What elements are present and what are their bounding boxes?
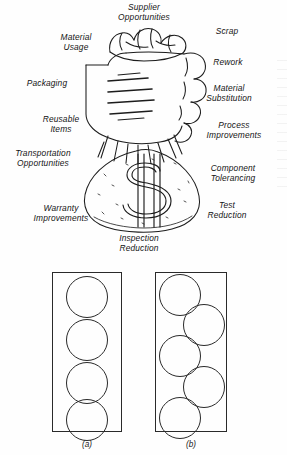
hand-holding-money-bag-illustration (74, 18, 214, 234)
packing-panel-a: (a) (52, 272, 122, 432)
panel-a-circle-2 (66, 319, 108, 361)
fist-fingers (175, 53, 206, 142)
label-packaging: Packaging (12, 78, 82, 88)
figure-page: Supplier Opportunities Scrap Material Us… (0, 0, 287, 455)
panel-a-circle-3 (66, 362, 108, 404)
panel-b-circle-5 (159, 397, 201, 439)
panel-a-boundary (52, 272, 122, 432)
circle-packing-figure: (a) (b) (0, 262, 287, 455)
panel-b-caption: (b) (155, 440, 227, 449)
hand-back (86, 52, 184, 144)
panel-b-boundary (155, 272, 227, 432)
dollar-sign-symbol (123, 154, 171, 227)
panel-a-circle-4 (66, 399, 108, 441)
bag-body (84, 150, 199, 233)
label-inspection-reduction: Inspection Reduction (96, 233, 182, 254)
money-bag-opportunities-figure: Supplier Opportunities Scrap Material Us… (0, 0, 287, 262)
panel-a-caption: (a) (52, 440, 122, 449)
panel-a-circle-1 (66, 276, 108, 318)
packing-panel-b: (b) (155, 272, 227, 432)
bag-neck-ruffle (110, 29, 186, 61)
